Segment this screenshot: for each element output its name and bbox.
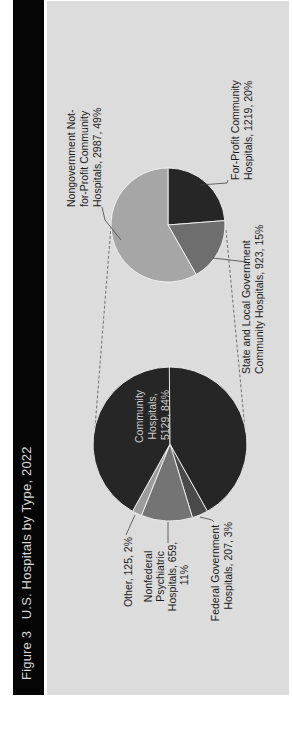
label-nongovernment: Nongovernment Not- for-Profit Community … (65, 107, 103, 207)
label-state-local: State and Local Government Community Hos… (240, 225, 265, 374)
label-for-profit: For-Profit Community Hospitals, 1219, 20… (229, 77, 254, 180)
figure: Figure 3 U.S. Hospitals by Type, 2022 Co… (13, 0, 289, 695)
label-other: Other, 125, 2% (122, 537, 134, 607)
wedge-for-profit (168, 168, 225, 225)
label-federal: Federal Government Hospitals, 207, 3% (209, 522, 234, 621)
label-community: Community Hospitals, 5129, 84% (133, 387, 171, 443)
breakdown-pie (111, 168, 225, 282)
label-psychiatric: Nonfederal Psychiatric Hospitals, 659, 1… (142, 539, 190, 611)
pie-of-pie-chart: Community Hospitals, 5129, 84% Other, 12… (13, 0, 289, 695)
leader-other (126, 515, 135, 535)
